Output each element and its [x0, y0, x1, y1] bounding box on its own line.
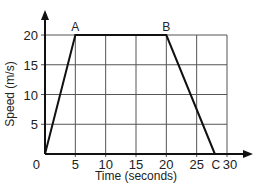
point-label-a: A [71, 20, 79, 34]
point-label-b: B [162, 20, 170, 34]
y-tick-label: 5 [31, 117, 38, 132]
y-axis-arrow-icon [41, 10, 49, 20]
grid-lines [41, 35, 227, 157]
speed-time-chart: 5101520253051015200 ABC Time (seconds) S… [0, 0, 266, 190]
x-tick-label: 30 [223, 157, 237, 172]
y-tick-label: 10 [24, 88, 38, 103]
y-tick-label: 15 [24, 58, 38, 73]
tick-labels: 5101520253051015200 [24, 28, 238, 172]
origin-label: 0 [33, 157, 40, 172]
point-labels: ABC [71, 20, 220, 172]
x-axis-title: Time (seconds) [95, 169, 177, 183]
x-tick-label: 5 [72, 157, 79, 172]
x-tick-label: 25 [189, 157, 203, 172]
point-label-c: C [212, 158, 221, 172]
y-tick-label: 20 [24, 28, 38, 43]
y-axis-title: Speed (m/s) [3, 61, 17, 126]
x-axis-arrow-icon [243, 150, 253, 158]
